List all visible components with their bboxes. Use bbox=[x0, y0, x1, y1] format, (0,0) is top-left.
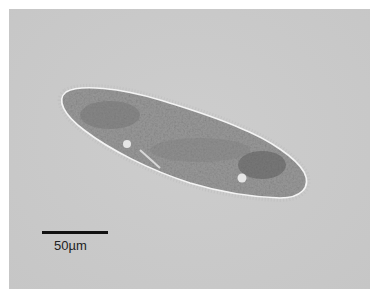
scale-bar bbox=[42, 231, 108, 234]
scale-bar-label: 50µm bbox=[54, 238, 87, 253]
paramecium-cell bbox=[0, 0, 375, 300]
